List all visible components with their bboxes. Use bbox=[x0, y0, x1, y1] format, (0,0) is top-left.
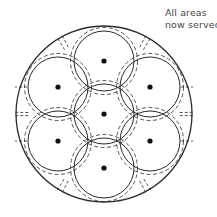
base-station-dot bbox=[101, 111, 106, 116]
tick-mark bbox=[144, 179, 151, 190]
base-station-dot bbox=[55, 84, 60, 89]
base-station-dot bbox=[55, 138, 60, 143]
tick-mark bbox=[62, 36, 68, 47]
tick-mark bbox=[143, 39, 150, 50]
tick-mark bbox=[57, 179, 64, 190]
base-station-dot bbox=[147, 84, 152, 89]
cell-coverage-diagram bbox=[0, 0, 217, 217]
tick-mark bbox=[140, 36, 146, 47]
caption: All areas now served bbox=[165, 7, 217, 31]
caption-line-2: now served bbox=[165, 19, 217, 31]
base-station-dot bbox=[147, 138, 152, 143]
tick-mark bbox=[58, 39, 65, 50]
tick-mark bbox=[140, 181, 146, 192]
caption-line-1: All areas bbox=[165, 7, 217, 19]
tick-mark bbox=[62, 181, 68, 192]
base-station-dot bbox=[101, 165, 106, 170]
base-station-dot bbox=[101, 58, 106, 63]
